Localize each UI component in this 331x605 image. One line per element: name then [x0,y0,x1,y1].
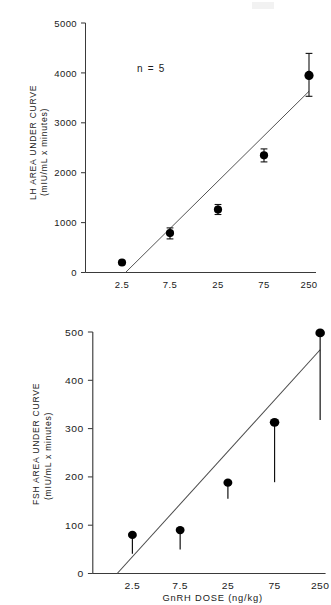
fsh-data-point [315,329,325,338]
fsh-y-tick-label-100: 100 [65,520,84,531]
fsh-x-tick-label-25: 25 [222,580,234,591]
fsh-y-tick-label-0: 0 [77,568,83,579]
lh-data-series [118,53,314,266]
lh-x-tick-label-2-5: 2.5 [115,279,129,290]
lh-y-tick-label-5000: 5000 [54,18,77,29]
fsh-y-tick-label-500: 500 [65,327,84,338]
lh-y-axis-title-line2: (mIU/mL x minutes) [39,108,49,196]
lh-data-point [214,206,222,214]
fsh-chart-svg: 0 100 200 300 400 500 2.5 7.5 25 75 250 … [0,300,331,605]
lh-y-tick-label-3000: 3000 [54,117,77,128]
lh-y-tick-label-4000: 4000 [54,68,77,79]
chart-panel-fsh: 0 100 200 300 400 500 2.5 7.5 25 75 250 … [0,300,331,605]
lh-sample-size-annotation: n = 5 [137,63,166,74]
lh-y-tick-label-0: 0 [71,267,77,278]
lh-data-point [118,258,126,266]
lh-regression-line [126,91,310,272]
fsh-y-tick-label-400: 400 [65,375,84,386]
lh-y-tick-label-1000: 1000 [54,217,77,228]
lh-data-point [260,151,268,159]
fsh-data-point [223,479,232,487]
chart-panel-lh: 0 1000 2000 3000 4000 5000 2.5 7.5 25 75… [0,0,331,300]
lh-y-axis-title-line1: LH AREA UNDER CURVE [28,85,38,200]
lh-x-tick-label-250: 250 [300,279,317,290]
fsh-x-axis-title: GnRH DOSE (ng/kg) [163,593,263,603]
fsh-y-tick-label-300: 300 [65,424,84,435]
fsh-data-series [128,329,325,554]
lh-data-point [166,229,174,237]
dose-response-figure: 0 1000 2000 3000 4000 5000 2.5 7.5 25 75… [0,0,331,605]
fsh-regression-line [117,350,320,574]
fsh-data-point [128,531,137,539]
fsh-y-tick-label-200: 200 [65,472,84,483]
fsh-y-ticks [88,332,93,574]
fsh-x-tick-label-75: 75 [268,580,280,591]
lh-chart-svg: 0 1000 2000 3000 4000 5000 2.5 7.5 25 75… [0,0,331,300]
fsh-data-point [176,526,185,534]
fsh-data-point [270,418,280,427]
lh-x-tick-label-75: 75 [258,279,269,290]
lh-x-tick-label-25: 25 [212,279,223,290]
scan-artifact [252,2,274,9]
fsh-x-tick-label-2-5: 2.5 [125,580,141,591]
fsh-y-axis-title-line2: (mIU/mL x minutes) [43,412,53,500]
lh-y-ticks [81,23,86,273]
fsh-x-tick-label-7-5: 7.5 [172,580,188,591]
lh-data-point [304,71,313,80]
fsh-x-tick-label-250: 250 [311,580,330,591]
lh-x-tick-label-7-5: 7.5 [163,279,177,290]
lh-y-tick-label-2000: 2000 [54,167,77,178]
fsh-y-axis-title-line1: FSH AREA UNDER CURVE [31,383,41,505]
